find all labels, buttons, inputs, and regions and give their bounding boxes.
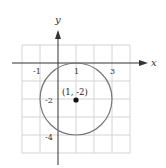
y-axis-label: y	[54, 14, 61, 25]
y-tick-neg2: -2	[45, 96, 53, 105]
y-axis	[55, 30, 61, 165]
center-point	[73, 97, 78, 102]
x-axis-arrow-icon	[139, 60, 148, 66]
coordinate-plane: x y -1 1 3 -2 -4 (1, -2)	[0, 0, 166, 168]
x-tick-3: 3	[110, 67, 115, 76]
x-tick-1: 1	[74, 67, 79, 76]
y-axis-arrow-icon	[55, 30, 61, 39]
y-tick-neg4: -4	[45, 133, 53, 142]
center-label: (1, -2)	[62, 87, 88, 97]
x-axis-label: x	[151, 57, 157, 68]
x-tick-neg1: -1	[33, 67, 41, 76]
